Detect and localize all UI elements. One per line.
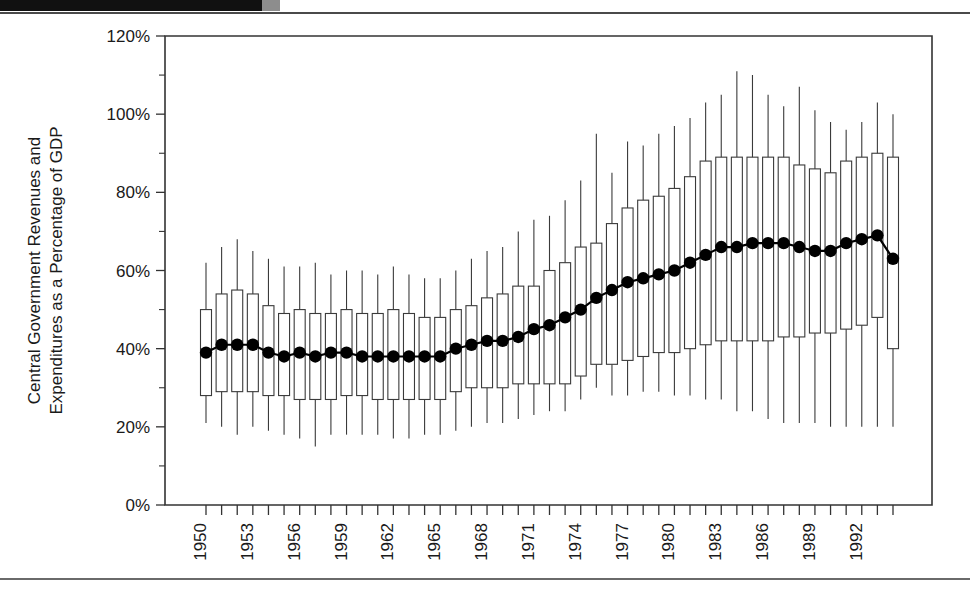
mean-marker <box>731 241 743 253</box>
boxplot-item <box>528 220 539 415</box>
page-root: Central Government Revenues andExpenditu… <box>0 0 970 591</box>
boxplot-item <box>841 130 852 427</box>
boxplot-item <box>888 114 899 427</box>
boxplot-item <box>638 145 649 391</box>
mean-marker <box>293 346 305 358</box>
mean-marker <box>262 346 274 358</box>
boxplot-item <box>232 239 243 434</box>
mean-marker <box>809 245 821 257</box>
x-tick-label: 1971 <box>519 523 538 561</box>
mean-marker <box>559 311 571 323</box>
x-tick-label: 1989 <box>800 523 819 561</box>
mean-marker <box>356 350 368 362</box>
header-band <box>0 0 262 11</box>
mean-marker <box>465 339 477 351</box>
x-tick-label: 1980 <box>659 523 678 561</box>
mean-marker <box>887 253 899 265</box>
boxplot-item <box>622 142 633 396</box>
mean-marker <box>606 284 618 296</box>
y-axis-title-line1: Central Government Revenues and <box>25 137 44 404</box>
boxplot-series <box>201 71 899 446</box>
mean-marker <box>715 241 727 253</box>
mean-marker <box>637 272 649 284</box>
mean-marker <box>699 249 711 261</box>
mean-marker <box>668 264 680 276</box>
mean-marker <box>871 229 883 241</box>
mean-marker <box>387 350 399 362</box>
mean-marker <box>200 346 212 358</box>
x-tick-label: 1983 <box>706 523 725 561</box>
mean-marker <box>793 241 805 253</box>
y-tick-label: 40% <box>116 340 150 359</box>
boxplot-chart: Central Government Revenues andExpenditu… <box>0 14 970 574</box>
mean-marker <box>590 292 602 304</box>
boxplot-item <box>216 247 227 427</box>
mean-marker <box>653 268 665 280</box>
boxplot-item <box>263 259 274 431</box>
boxplot-item <box>591 134 602 388</box>
y-tick-label: 20% <box>116 418 150 437</box>
mean-marker <box>418 350 430 362</box>
mean-marker <box>528 323 540 335</box>
mean-marker <box>340 346 352 358</box>
mean-marker <box>824 245 836 257</box>
y-tick-label: 0% <box>125 496 150 515</box>
boxplot-item <box>201 263 212 423</box>
mean-marker <box>575 303 587 315</box>
header-band-tail <box>262 0 280 11</box>
mean-marker <box>512 331 524 343</box>
x-tick-label: 1962 <box>378 523 397 561</box>
boxplot-item <box>669 126 680 396</box>
footer-rule <box>0 578 970 580</box>
x-tick-label: 1956 <box>285 523 304 561</box>
mean-marker <box>247 339 259 351</box>
mean-marker <box>684 256 696 268</box>
mean-marker <box>543 319 555 331</box>
boxplot-item <box>809 110 820 423</box>
mean-marker <box>856 233 868 245</box>
boxplot-item <box>575 181 586 400</box>
boxplot-item <box>653 134 664 392</box>
mean-marker <box>481 335 493 347</box>
mean-marker <box>840 237 852 249</box>
mean-marker <box>434 350 446 362</box>
mean-marker <box>231 339 243 351</box>
boxplot-figure: Central Government Revenues andExpenditu… <box>0 14 970 574</box>
mean-marker <box>403 350 415 362</box>
mean-marker <box>450 342 462 354</box>
mean-marker <box>215 339 227 351</box>
boxplot-item <box>778 106 789 423</box>
mean-marker <box>372 350 384 362</box>
x-tick-label: 1968 <box>472 523 491 561</box>
x-tick-label: 1953 <box>238 523 257 561</box>
x-axis: 1950195319561959196219651968197119741977… <box>191 505 893 561</box>
mean-marker <box>621 276 633 288</box>
boxplot-item <box>872 102 883 426</box>
boxplot-item <box>513 231 524 419</box>
x-tick-label: 1965 <box>425 523 444 561</box>
boxplot-item <box>825 122 836 427</box>
y-axis: 0%20%40%60%80%100%120% <box>107 27 165 515</box>
y-axis-title: Central Government Revenues andExpenditu… <box>25 126 66 414</box>
mean-marker <box>325 346 337 358</box>
x-tick-label: 1950 <box>191 523 210 561</box>
boxplot-item <box>544 216 555 411</box>
y-tick-label: 100% <box>107 105 150 124</box>
boxplot-item <box>794 87 805 423</box>
mean-marker <box>496 335 508 347</box>
mean-marker <box>746 237 758 249</box>
mean-marker <box>778 237 790 249</box>
y-tick-label: 80% <box>116 183 150 202</box>
x-tick-label: 1959 <box>332 523 351 561</box>
x-tick-label: 1986 <box>753 523 772 561</box>
boxplot-item <box>856 122 867 427</box>
y-tick-label: 120% <box>107 27 150 46</box>
x-tick-label: 1992 <box>847 523 866 561</box>
mean-marker <box>278 350 290 362</box>
y-axis-title-line2: Expenditures as a Percentage of GDP <box>47 126 66 414</box>
boxplot-item <box>560 200 571 411</box>
x-tick-label: 1977 <box>613 523 632 561</box>
x-tick-label: 1974 <box>566 523 585 561</box>
mean-marker <box>762 237 774 249</box>
boxplot-item <box>763 95 774 419</box>
